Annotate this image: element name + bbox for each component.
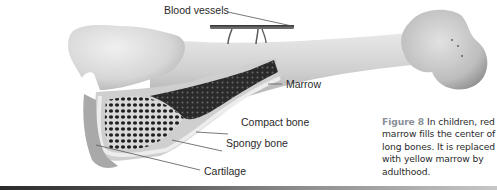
bone-head-right <box>401 10 487 90</box>
figure-caption: Figure 8In children, red marrow fills th… <box>382 116 497 178</box>
label-spongy-bone: Spongy bone <box>226 138 288 149</box>
label-cartilage: Cartilage <box>204 166 246 177</box>
long-bone-figure: Blood vessels Marrow Compact bone Spongy… <box>0 0 497 190</box>
label-marrow: Marrow <box>286 79 321 90</box>
figure-number: Figure 8 <box>382 116 424 127</box>
bottom-divider-bar <box>0 186 497 190</box>
blood-vessels-graphic <box>210 25 294 44</box>
label-blood-vessels: Blood vessels <box>164 5 229 16</box>
label-compact-bone: Compact bone <box>241 117 309 128</box>
